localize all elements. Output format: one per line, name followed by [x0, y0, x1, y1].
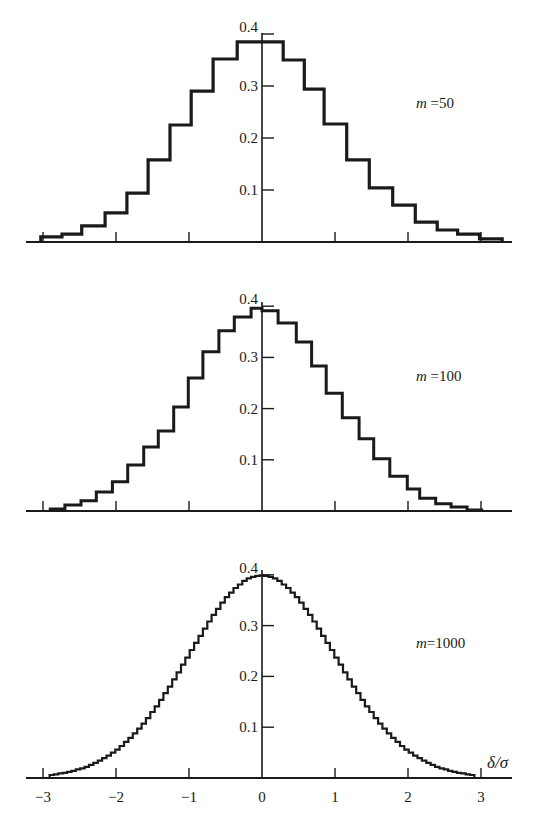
y-tick-label: 0.1 [239, 452, 258, 468]
x-tick-label: −1 [181, 789, 197, 805]
y-tick-label: 0.4 [239, 560, 258, 576]
y-tick-label: 0.2 [239, 401, 258, 417]
x-tick-label: 0 [258, 789, 266, 805]
label-value: 50 [439, 95, 454, 111]
y-ticks-m1000: 0.10.20.30.4 [239, 560, 274, 735]
panel-label-m50: m =50 [416, 95, 454, 111]
x-ticks-m1000: −3−2−10123 [35, 768, 485, 805]
label-var: m [416, 635, 427, 651]
label-eq: = [427, 368, 439, 384]
histogram-m100 [50, 308, 481, 511]
y-ticks-m50: 0.10.20.30.4 [239, 19, 274, 198]
y-tick-label: 0.3 [239, 618, 258, 634]
y-tick-label: 0.2 [239, 130, 258, 146]
x-tick-label: 1 [331, 789, 339, 805]
histogram-m50 [41, 42, 502, 242]
y-tick-label: 0.1 [239, 719, 258, 735]
label-var: m [416, 368, 427, 384]
y-tick-label: 0.3 [239, 349, 258, 365]
label-eq: = [427, 95, 439, 111]
label-var: m [416, 95, 427, 111]
y-tick-label: 0.4 [239, 19, 258, 35]
panel-label-m100: m =100 [416, 368, 462, 384]
y-tick-label: 0.3 [239, 78, 258, 94]
panel-m1000: −3−2−10123 0.10.20.30.4 m=1000 δ/σ [26, 560, 512, 805]
y-tick-label: 0.1 [239, 182, 258, 198]
y-tick-label: 0.4 [239, 291, 258, 307]
x-axis-title: δ/σ [487, 753, 509, 772]
x-tick-label: −3 [35, 789, 51, 805]
figure: 0.10.20.30.4 m =50 0.10.20.30.4 m =100 −… [0, 0, 538, 827]
panel-m100: 0.10.20.30.4 m =100 [26, 291, 512, 511]
x-tick-label: 3 [477, 789, 485, 805]
label-value: 1000 [435, 635, 465, 651]
label-value: 100 [439, 368, 462, 384]
panel-m50: 0.10.20.30.4 m =50 [26, 19, 512, 242]
panel-label-m1000: m=1000 [416, 635, 465, 651]
y-tick-label: 0.2 [239, 668, 258, 684]
x-tick-label: 2 [404, 789, 412, 805]
x-tick-label: −2 [108, 789, 124, 805]
label-eq: = [427, 635, 435, 651]
